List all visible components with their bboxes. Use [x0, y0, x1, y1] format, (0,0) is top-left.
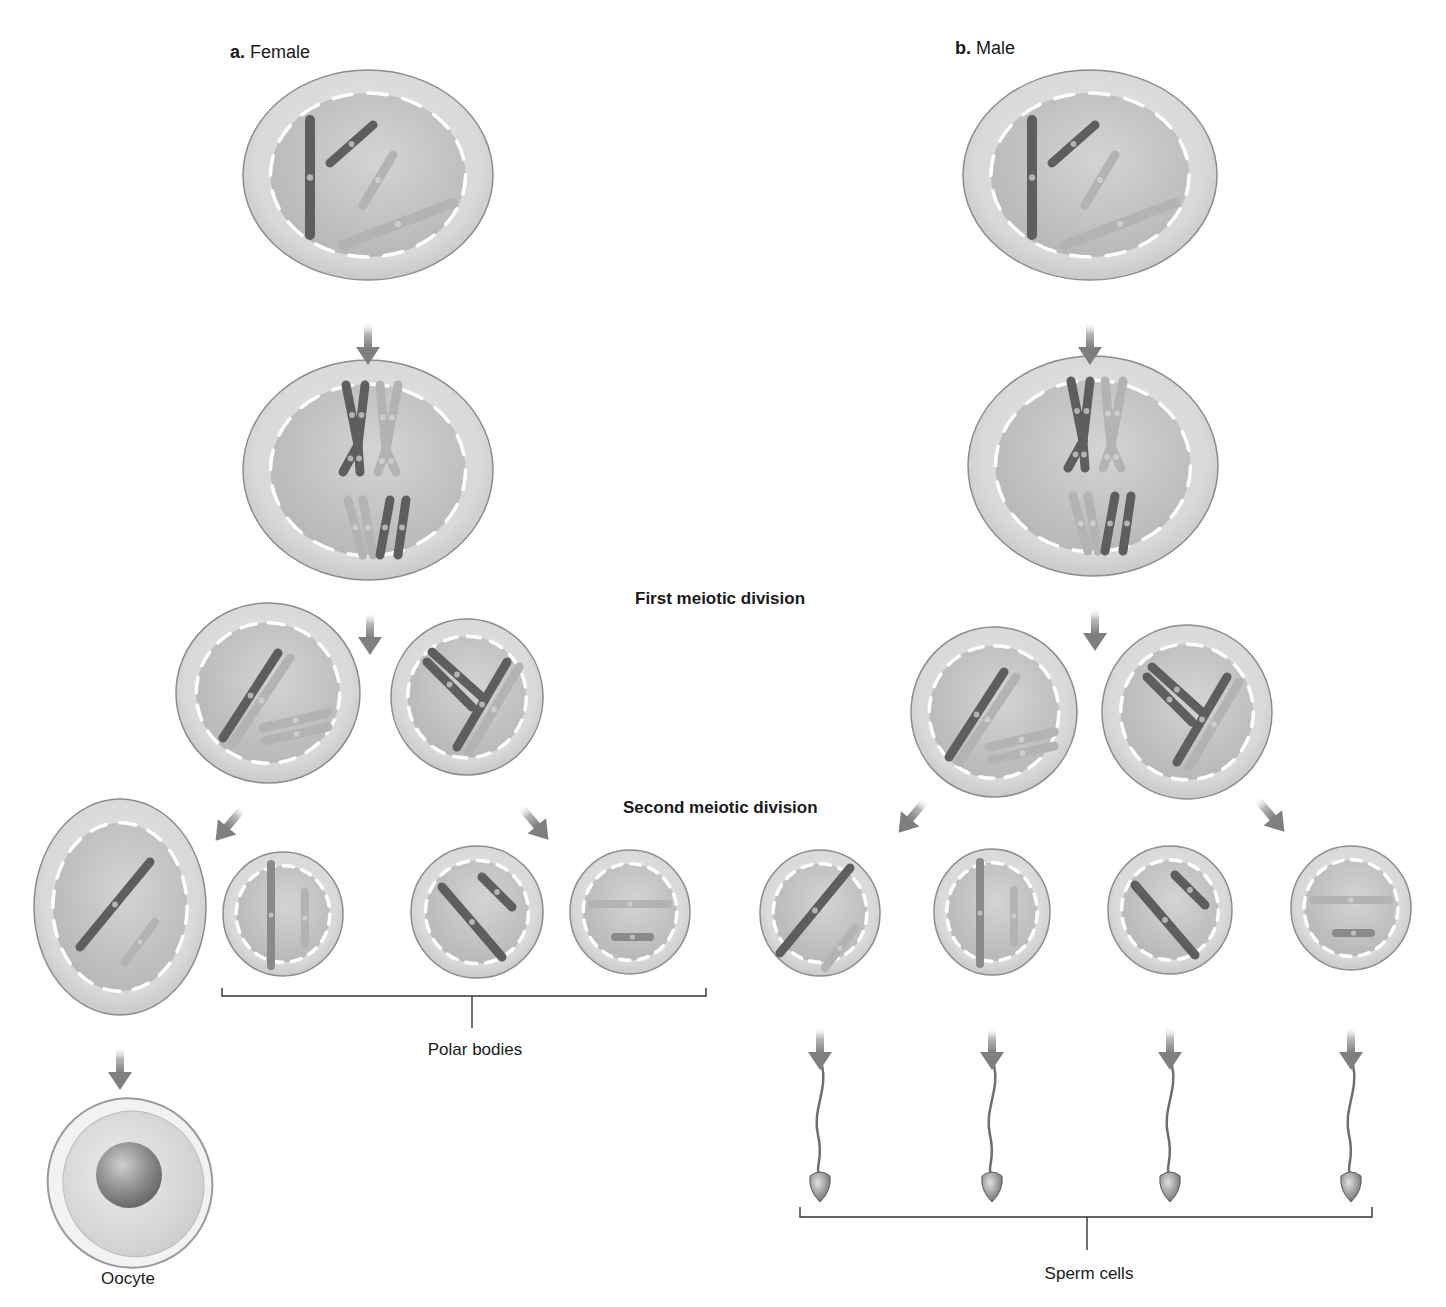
panel-title-female: a. Female — [230, 42, 310, 63]
arrow-diagonal-icon — [889, 791, 936, 840]
sperm-cell — [810, 1065, 831, 1202]
chromosome — [1029, 120, 1035, 235]
sperm-cell — [1341, 1065, 1362, 1202]
male-meiosis2-cell-4 — [1291, 846, 1411, 970]
meiosis-diagram — [0, 0, 1446, 1307]
male-meiosis1-cell-2 — [1102, 625, 1272, 799]
female-meiosis2-cell-2 — [223, 852, 343, 976]
sperm-cell — [1160, 1065, 1181, 1202]
sperm-tail — [817, 1065, 824, 1175]
sperm-head — [810, 1172, 831, 1202]
female-meiosis2-cell-1 — [34, 799, 206, 1015]
arrow-diagonal-icon — [1247, 790, 1294, 839]
panel-title-male: b. Male — [955, 38, 1015, 59]
arrow-down-icon — [356, 321, 380, 365]
male-meiosis2-cell-3 — [1108, 846, 1232, 974]
arrow-down-icon — [808, 1026, 832, 1070]
chromosome — [307, 120, 313, 235]
chromosome — [977, 862, 982, 964]
polar-bodies-caption: Polar bodies — [428, 1040, 523, 1060]
chromosome — [1336, 930, 1371, 935]
female-meiosis2-cell-4 — [570, 850, 690, 974]
oocyte-cell — [24, 1075, 236, 1291]
male-meiosis2-cell-2 — [934, 849, 1050, 975]
female-meiosis2-cell-3 — [411, 846, 543, 978]
panel-title-male-text: Male — [976, 38, 1015, 58]
sperm-head — [982, 1172, 1003, 1202]
sperm-tail — [1348, 1065, 1355, 1175]
arrow-diagonal-icon — [206, 799, 253, 848]
arrow-down-icon — [1158, 1026, 1182, 1070]
male-tetrad-cell — [968, 356, 1218, 576]
chromosome — [1313, 897, 1389, 902]
arrow-down-icon — [108, 1046, 132, 1090]
sperm-cells-bracket — [800, 1207, 1372, 1250]
chromosome — [1081, 441, 1087, 468]
female-parent-cell — [243, 70, 493, 280]
male-meiosis1-cell-1 — [911, 627, 1077, 797]
arrow-down-icon — [980, 1026, 1004, 1070]
female-tetrad-cell — [243, 360, 493, 580]
panel-letter-b: b. — [955, 38, 971, 58]
male-parent-cell — [963, 70, 1217, 280]
sperm-cell — [982, 1065, 1003, 1202]
chromosome — [302, 892, 307, 944]
first-meiotic-division-label: First meiotic division — [635, 589, 805, 609]
sperm-tail — [989, 1065, 996, 1175]
chromosome — [356, 445, 362, 472]
polar-bodies-bracket — [222, 988, 706, 1028]
chromosome — [268, 864, 273, 966]
panel-letter-a: a. — [230, 42, 245, 62]
female-meiosis1-cell-1 — [176, 603, 360, 783]
chromosome — [592, 901, 668, 906]
sperm-tail — [1167, 1065, 1174, 1175]
female-meiosis1-cell-2 — [391, 619, 543, 775]
panel-title-female-text: Female — [250, 42, 310, 62]
second-meiotic-division-label: Second meiotic division — [623, 798, 818, 818]
chromosome — [1011, 890, 1016, 942]
oocyte-nucleus — [96, 1142, 162, 1208]
arrow-down-icon — [1339, 1026, 1363, 1070]
sperm-cells-caption: Sperm cells — [1045, 1264, 1134, 1284]
arrow-down-icon — [1083, 607, 1107, 651]
sperm-head — [1341, 1172, 1362, 1202]
arrow-diagonal-icon — [511, 798, 558, 847]
sperm-head — [1160, 1172, 1181, 1202]
arrow-down-icon — [358, 611, 382, 655]
male-meiosis2-cell-1 — [760, 850, 880, 976]
oocyte-caption: Oocyte — [101, 1269, 155, 1289]
chromosome — [615, 934, 650, 939]
